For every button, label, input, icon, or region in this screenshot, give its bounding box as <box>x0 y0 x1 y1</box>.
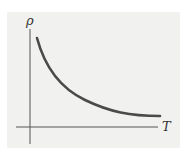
rho-curve <box>37 38 160 116</box>
x-axis-label: T <box>162 119 172 134</box>
resistivity-temperature-diagram: ρ T <box>0 0 188 155</box>
y-axis-label: ρ <box>25 13 34 28</box>
